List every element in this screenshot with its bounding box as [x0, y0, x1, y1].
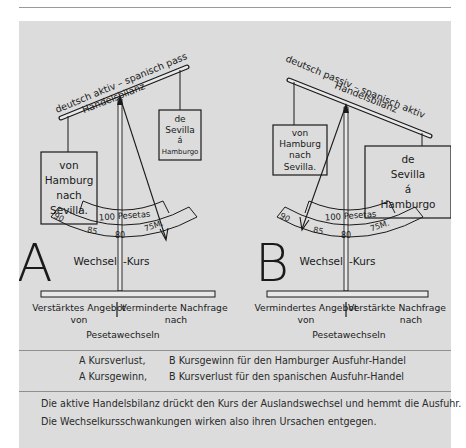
- svg-text:von: von: [71, 314, 88, 325]
- svg-text:von: von: [292, 128, 309, 138]
- diagram-a: deutsch aktiv – spanisch passiv Handelsb…: [19, 21, 228, 340]
- balance-scale-figure: deutsch aktiv – spanisch passiv Handelsb…: [19, 21, 451, 351]
- svg-text:de: de: [401, 153, 414, 165]
- summary-line-2: Die Wechselkursschwankungen wirken also …: [41, 416, 377, 427]
- svg-text:von: von: [298, 314, 315, 325]
- svg-text:nach: nach: [165, 314, 188, 325]
- divider-top: [19, 350, 451, 351]
- svg-text:Hamburgo: Hamburgo: [380, 198, 435, 210]
- legend-a-2: A Kursgewinn,: [79, 371, 147, 382]
- svg-text:á: á: [178, 136, 183, 145]
- running-head: Der Zahlmarkt 203: [19, 0, 451, 8]
- diagram-b: deutsch passiv – spanisch aktiv Handelsb…: [254, 53, 451, 340]
- box-b-right: de Sevilla á Hamburgo: [365, 146, 451, 218]
- svg-text:Vermindertes Angebot: Vermindertes Angebot: [254, 302, 357, 313]
- diagram-letter-a: A: [19, 233, 53, 293]
- svg-text:nach: nach: [400, 314, 423, 325]
- svg-text:Sevilla: Sevilla: [165, 125, 195, 135]
- divider-bottom: [19, 391, 451, 392]
- svg-text:100 Pesetas: 100 Pesetas: [324, 209, 377, 223]
- box-b-left: von Hamburg nach Sevilla.: [273, 125, 327, 175]
- svg-text:nach: nach: [289, 150, 311, 160]
- svg-text:Verminderte Nachfrage: Verminderte Nachfrage: [120, 302, 227, 313]
- legend-b-2: B Kursverlust für den spanischen Ausfuhr…: [169, 371, 404, 382]
- svg-text:75M.: 75M.: [369, 219, 390, 234]
- svg-text:85: 85: [86, 225, 98, 236]
- svg-text:100 Pesetas: 100 Pesetas: [98, 209, 151, 223]
- post-label-a-right: -Kurs: [123, 255, 150, 267]
- svg-text:80: 80: [115, 231, 125, 240]
- svg-text:Sevilla: Sevilla: [391, 168, 426, 180]
- post-label-b-right: -Kurs: [349, 255, 376, 267]
- svg-text:de: de: [174, 114, 186, 124]
- svg-text:Hamburg: Hamburg: [45, 174, 94, 186]
- svg-text:Pesetawechseln: Pesetawechseln: [86, 329, 160, 340]
- diagram-letter-b: B: [255, 233, 289, 293]
- legend-b-1: B Kursgewinn für den Hamburger Ausfuhr-H…: [169, 355, 406, 366]
- figure-panel: deutsch aktiv – spanisch passiv Handelsb…: [19, 21, 451, 448]
- svg-text:Hamburg: Hamburg: [279, 139, 321, 149]
- svg-text:nach: nach: [56, 189, 82, 201]
- svg-text:Verstärkte Nachfrage: Verstärkte Nachfrage: [348, 302, 446, 313]
- svg-text:von: von: [59, 159, 78, 171]
- box-a-right: de Sevilla á Hamburgo: [159, 110, 201, 160]
- post-label-a-left: Wechsel: [73, 255, 117, 267]
- svg-text:á: á: [405, 183, 411, 195]
- svg-text:80: 80: [341, 231, 351, 240]
- svg-text:Pesetawechseln: Pesetawechseln: [312, 329, 386, 340]
- summary-line-1: Die aktive Handelsbilanz drückt den Kurs…: [41, 398, 461, 409]
- svg-text:85: 85: [312, 225, 324, 236]
- svg-text:Sevilla.: Sevilla.: [284, 162, 316, 172]
- post-label-b-left: Wechsel: [299, 255, 343, 267]
- svg-text:Verstärktes Angebot: Verstärktes Angebot: [32, 302, 126, 313]
- svg-text:Hamburgo: Hamburgo: [162, 148, 199, 156]
- legend-a-1: A Kursverlust,: [79, 355, 146, 366]
- box-a-left: von Hamburg nach Sevilla.: [41, 152, 97, 224]
